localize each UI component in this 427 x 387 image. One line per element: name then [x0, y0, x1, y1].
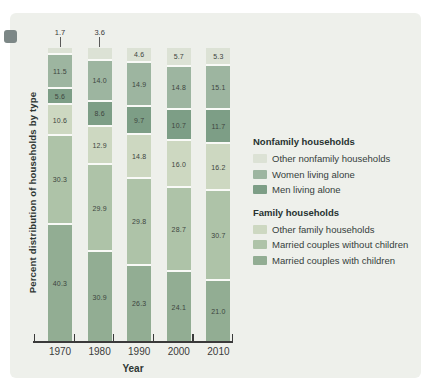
legend-item: Married couples without children: [253, 237, 408, 253]
segment-value-label: 29.8: [127, 218, 151, 225]
legend-group: Family householdsOther family households…: [253, 207, 408, 269]
segment-value-label: 10.7: [167, 121, 191, 128]
legend-group: Nonfamily householdsOther nonfamily hous…: [253, 136, 408, 198]
segment: 10.6: [48, 103, 72, 134]
segment-value-label: 29.9: [88, 204, 112, 211]
segment-value-label: 5.7: [167, 53, 191, 60]
stacked-bar-1990: 4.614.99.714.829.826.3: [127, 48, 151, 341]
x-axis-tick: [113, 334, 114, 341]
x-axis-tick: [232, 334, 233, 341]
segment: 40.3: [48, 223, 72, 341]
callout-value-label: 1.7: [40, 28, 80, 37]
segment: 26.3: [127, 264, 151, 341]
segment: 5.3: [206, 48, 230, 64]
segment: 21.0: [206, 279, 230, 341]
segment: 8.6: [88, 100, 112, 125]
segment: 14.8: [167, 65, 191, 108]
legend-item: Women living alone: [253, 167, 408, 183]
segment: 14.8: [127, 133, 151, 176]
segment-value-label: 10.6: [48, 116, 72, 123]
segment: 9.7: [127, 105, 151, 133]
callout-line: [60, 37, 61, 47]
callout-value-label: 3.6: [80, 28, 120, 37]
segment-value-label: 9.7: [127, 117, 151, 124]
segment-value-label: 26.3: [127, 300, 151, 307]
x-tick-label-2000: 2000: [159, 346, 199, 357]
segment-value-label: 11.5: [48, 67, 72, 74]
segment-value-label: 14.8: [127, 152, 151, 159]
corner-tab: [4, 30, 17, 43]
segment-value-label: 15.1: [206, 83, 230, 90]
legend-swatch-icon: [253, 225, 267, 234]
x-axis-tick: [74, 334, 75, 341]
legend: Nonfamily householdsOther nonfamily hous…: [253, 136, 408, 277]
segment: 28.7: [167, 186, 191, 270]
x-axis-tick: [34, 334, 35, 341]
segment: 12.9: [88, 125, 112, 163]
stacked-bar-1980: 14.08.612.929.930.9: [88, 48, 112, 341]
legend-swatch-icon: [253, 240, 267, 249]
legend-swatch-icon: [253, 256, 267, 265]
segment: 30.3: [48, 134, 72, 223]
segment: 10.7: [167, 108, 191, 139]
stacked-bar-2010: 5.315.111.716.230.721.0: [206, 48, 230, 341]
segment: 29.9: [88, 163, 112, 251]
figure-canvas: Percent distribution of households by ty…: [0, 0, 427, 387]
segment-value-label: 12.9: [88, 141, 112, 148]
x-axis-tick: [153, 334, 154, 341]
segment: 11.5: [48, 53, 72, 87]
legend-item-label: Married couples without children: [272, 239, 408, 250]
segment: 16.2: [206, 142, 230, 189]
legend-item: Married couples with children: [253, 253, 408, 269]
segment: 5.6: [48, 87, 72, 103]
legend-swatch-icon: [253, 154, 267, 163]
segment-value-label: 14.9: [127, 81, 151, 88]
segment: 5.7: [167, 48, 191, 65]
legend-group-header: Family households: [253, 207, 408, 218]
segment-value-label: 30.7: [206, 232, 230, 239]
callout-line: [99, 37, 100, 47]
legend-item: Men living alone: [253, 182, 408, 198]
segment-value-label: 21.0: [206, 308, 230, 315]
segment-value-label: 40.3: [48, 279, 72, 286]
x-axis-line: [33, 341, 233, 343]
x-tick-label-2010: 2010: [198, 346, 238, 357]
segment-value-label: 16.2: [206, 163, 230, 170]
legend-item-label: Married couples with children: [272, 255, 395, 266]
segment-value-label: 16.0: [167, 160, 191, 167]
x-axis-label: Year: [93, 363, 173, 374]
legend-item: Other family households: [253, 222, 408, 238]
legend-item-label: Men living alone: [272, 184, 341, 195]
segment-value-label: 5.6: [48, 92, 72, 99]
segment: 30.9: [88, 250, 112, 341]
segment: 30.7: [206, 189, 230, 279]
chart-panel: Percent distribution of households by ty…: [10, 13, 421, 378]
segment: 29.8: [127, 177, 151, 264]
legend-swatch-icon: [253, 170, 267, 179]
legend-item-label: Women living alone: [272, 169, 355, 180]
legend-item-label: Other family households: [272, 224, 374, 235]
legend-item-label: Other nonfamily households: [272, 153, 390, 164]
legend-group-header: Nonfamily households: [253, 136, 408, 147]
stacked-bar-2000: 5.714.810.716.028.724.1: [167, 48, 191, 341]
y-axis-label: Percent distribution of households by ty…: [27, 43, 38, 343]
segment-value-label: 5.3: [206, 52, 230, 59]
x-axis-tick: [192, 334, 193, 341]
segment-value-label: 28.7: [167, 226, 191, 233]
segment: [88, 48, 112, 59]
x-tick-label-1970: 1970: [40, 346, 80, 357]
x-tick-label-1980: 1980: [80, 346, 120, 357]
legend-swatch-icon: [253, 185, 267, 194]
segment: 4.6: [127, 48, 151, 61]
segment-value-label: 4.6: [127, 51, 151, 58]
segment-value-label: 11.7: [206, 122, 230, 129]
segment: 15.1: [206, 64, 230, 108]
segment-value-label: 14.8: [167, 84, 191, 91]
segment: 24.1: [167, 270, 191, 341]
legend-item: Other nonfamily households: [253, 151, 408, 167]
segment-value-label: 30.9: [88, 293, 112, 300]
segment-value-label: 24.1: [167, 303, 191, 310]
segment: 14.9: [127, 61, 151, 105]
segment: 14.0: [88, 59, 112, 100]
segment-value-label: 30.3: [48, 176, 72, 183]
